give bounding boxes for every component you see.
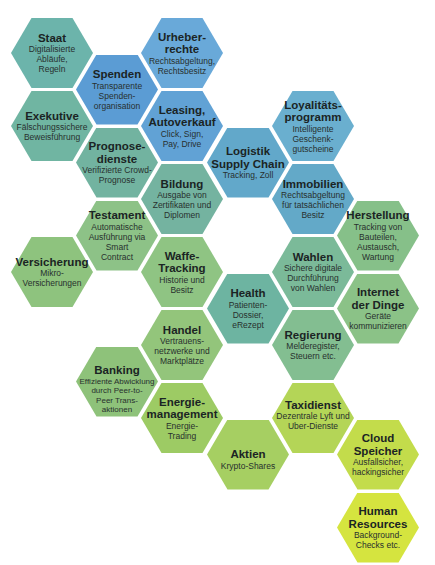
hex-human-resources: Human ResourcesBackground- Checks etc.: [337, 493, 419, 563]
hex-title: Loyalitäts- programm: [284, 99, 342, 124]
hex-title: Staat: [38, 32, 66, 45]
hex-description: Rechtsabgeltung, Rechtsbesitz: [149, 56, 215, 76]
hex-description: Mikro- Versicherungen: [22, 268, 81, 288]
hex-title: Herstellung: [346, 209, 409, 222]
hex-description: Intelligente Geschenk- gutscheine: [292, 124, 333, 154]
hex-title: Health: [230, 287, 265, 300]
hex-title: Cloud Speicher: [354, 432, 403, 457]
hex-title: Aktien: [230, 448, 265, 461]
hex-title: Taxidienst: [285, 399, 341, 412]
hex-description: Energie- Trading: [166, 421, 198, 441]
hex-title: Waffe- Tracking: [158, 250, 205, 275]
hex-urheberrechte: Urheber- rechteRechtsabgeltung, Rechtsbe…: [141, 18, 223, 88]
hex-description: Geräte kommunizieren: [349, 311, 407, 331]
hex-cloud-speicher: Cloud SpeicherAusfallsicher, hackingsich…: [337, 420, 419, 490]
hex-description: Ausfallsicher, hackingsicher: [352, 457, 404, 477]
hex-title: Energie- management: [147, 396, 218, 421]
hex-herstellung: HerstellungTracking von Bauteilen, Austa…: [337, 201, 419, 271]
hex-internet-der-dinge: Internet der DingeGeräte kommunizieren: [337, 274, 419, 344]
hex-title: Leasing, Autoverkauf: [148, 104, 215, 129]
hex-description: Background- Checks etc.: [354, 530, 402, 550]
hex-description: Tracking von Bauteilen, Austausch, Wartu…: [354, 222, 402, 262]
hex-title: Immobilien: [283, 178, 344, 191]
hex-title: Internet der Dinge: [351, 286, 404, 311]
hex-title: Human Resources: [349, 505, 408, 530]
blockchain-use-case-hex-diagram: StaatDigitalisierte Abläufe, Regeln Exek…: [0, 0, 435, 565]
hex-description: Melderegister, Steuern etc.: [286, 341, 339, 361]
hex-title: Handel: [163, 324, 201, 337]
hex-title: Urheber- rechte: [158, 31, 206, 56]
hex-description: Krypto-Shares: [221, 461, 275, 471]
hex-loyalitaetsprogramm: Loyalitäts- programmIntelligente Geschen…: [272, 91, 354, 161]
